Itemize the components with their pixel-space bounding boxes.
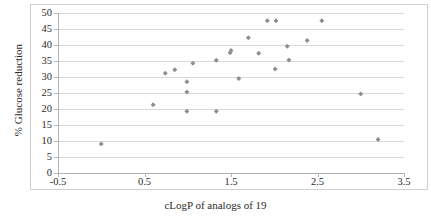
gridline-y xyxy=(58,141,404,142)
y-tick-label: 10 xyxy=(34,136,52,146)
y-tick-mark xyxy=(54,77,58,78)
y-tick-label: 25 xyxy=(34,88,52,98)
x-tick-label: 0.5 xyxy=(125,176,165,187)
gridline-y xyxy=(58,29,404,30)
y-axis-line xyxy=(58,13,59,174)
data-point xyxy=(214,58,219,63)
plot-area xyxy=(58,13,404,173)
gridline-y xyxy=(58,109,404,110)
y-tick-mark xyxy=(54,141,58,142)
y-tick-label: 50 xyxy=(34,8,52,18)
gridline-y xyxy=(58,157,404,158)
y-tick-mark xyxy=(54,109,58,110)
data-point xyxy=(265,18,270,23)
y-tick-label: 45 xyxy=(34,24,52,34)
y-tick-mark xyxy=(54,13,58,14)
y-tick-mark xyxy=(54,61,58,62)
data-point xyxy=(172,67,177,72)
y-tick-label: 5 xyxy=(34,152,52,162)
y-tick-label: 35 xyxy=(34,56,52,66)
y-tick-label: 15 xyxy=(34,120,52,130)
gridline-y xyxy=(58,13,404,14)
data-point xyxy=(151,102,156,107)
gridline-y xyxy=(58,125,404,126)
data-point xyxy=(273,67,278,72)
y-tick-mark xyxy=(54,157,58,158)
data-point xyxy=(184,79,189,84)
data-point xyxy=(273,18,278,23)
y-tick-mark xyxy=(54,125,58,126)
gridline-y xyxy=(58,77,404,78)
y-tick-mark xyxy=(54,45,58,46)
data-point xyxy=(163,71,168,76)
data-point xyxy=(305,38,310,43)
gridline-y xyxy=(58,45,404,46)
data-point xyxy=(319,18,324,23)
y-axis-tick-labels: 05101520253035404550 xyxy=(32,0,52,221)
x-tick-label: 1.5 xyxy=(211,176,251,187)
y-tick-mark xyxy=(54,93,58,94)
data-point xyxy=(256,51,261,56)
data-point xyxy=(246,35,251,40)
gridline-y xyxy=(58,93,404,94)
x-tick-label: 3.5 xyxy=(384,176,424,187)
data-point xyxy=(99,141,104,146)
x-tick-label: 2.5 xyxy=(298,176,338,187)
y-tick-label: 40 xyxy=(34,40,52,50)
x-tick-label: -0.5 xyxy=(38,176,78,187)
y-tick-mark xyxy=(54,29,58,30)
y-axis-title: % Glucose reduction xyxy=(12,15,24,165)
scatter-chart-figure: % Glucose reduction 05101520253035404550… xyxy=(0,0,431,221)
gridline-y xyxy=(58,61,404,62)
y-tick-label: 20 xyxy=(34,104,52,114)
x-axis-title: cLogP of analogs of 19 xyxy=(0,199,431,211)
y-tick-label: 30 xyxy=(34,72,52,82)
